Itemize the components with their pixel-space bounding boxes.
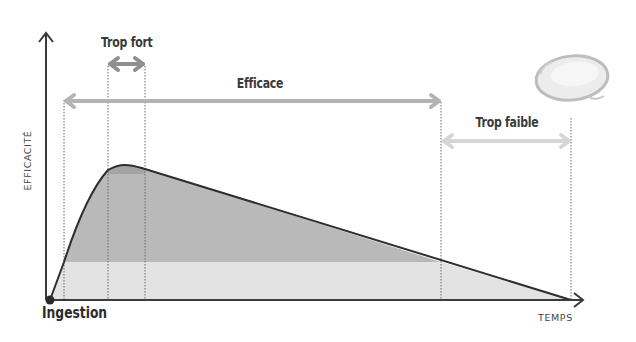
area-below-threshold [50, 262, 571, 300]
origin-label: Ingestion [42, 304, 107, 322]
y-axis-label: EFFICACITÉ [22, 121, 33, 201]
range-label-effective: Efficace [230, 75, 289, 91]
arrow-too-weak [444, 135, 569, 147]
pill-illustration [534, 52, 610, 103]
area-above-threshold [64, 165, 441, 262]
efficacy-time-diagram: EFFICACITÉ TEMPS Ingestion Trop fort Eff… [0, 0, 636, 342]
x-axis-label: TEMPS [538, 312, 573, 323]
arrow-too-strong [110, 58, 143, 70]
arrow-effective [66, 95, 439, 107]
range-label-too-weak: Trop faible [472, 114, 542, 130]
y-axis [39, 33, 53, 300]
diagram-graphics [0, 0, 636, 342]
range-label-too-strong: Trop fort [101, 34, 151, 50]
